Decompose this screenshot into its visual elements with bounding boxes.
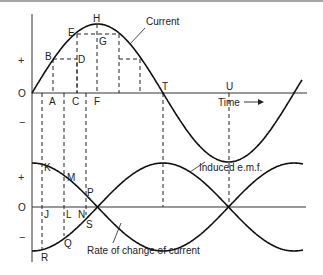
point-M: M	[67, 172, 75, 183]
lower-origin-label: O	[18, 202, 26, 213]
point-F: F	[94, 96, 100, 107]
lower-minus-sign: −	[19, 231, 25, 243]
point-D: D	[78, 54, 85, 65]
point-S: S	[86, 219, 93, 230]
current-leader-line	[130, 28, 145, 44]
time-axis-label: Time	[218, 97, 240, 108]
point-T: T	[162, 81, 168, 92]
rate-of-change-label: Rate of change of current	[87, 245, 200, 256]
upper-minus-sign: −	[19, 116, 25, 128]
point-L: L	[66, 209, 72, 220]
time-arrow-icon	[258, 99, 264, 105]
dash-right-step	[119, 59, 140, 93]
point-A: A	[49, 96, 56, 107]
point-Q: Q	[64, 238, 72, 249]
point-B: B	[45, 51, 52, 62]
dash-B-D	[53, 59, 77, 93]
diagram-canvas: + O − Time Current B D E H G A C F T U +…	[0, 0, 323, 275]
point-U: U	[226, 81, 233, 92]
point-G: G	[99, 36, 107, 47]
lower-plus-sign: +	[18, 171, 24, 183]
point-E: E	[68, 27, 75, 38]
point-C: C	[72, 96, 79, 107]
induced-emf-label: Induced e.m.f.	[199, 162, 262, 173]
point-J: J	[44, 209, 49, 220]
point-K: K	[44, 162, 51, 173]
point-P: P	[87, 187, 94, 198]
point-N: N	[78, 209, 85, 220]
point-R: R	[41, 252, 48, 263]
upper-plus-sign: +	[18, 54, 24, 66]
current-curve-label: Current	[146, 16, 180, 27]
upper-construction-lines	[53, 24, 140, 93]
upper-origin-label: O	[18, 88, 26, 99]
point-H: H	[93, 13, 100, 24]
